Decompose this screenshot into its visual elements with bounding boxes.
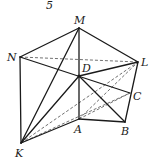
vertex-labels: M N L D C A B K (6, 14, 148, 160)
point-D-dot (77, 74, 80, 77)
edge-NK (20, 57, 21, 143)
label-D: D (81, 62, 91, 75)
label-B: B (120, 125, 129, 138)
label-L: L (140, 56, 148, 69)
label-N: N (6, 51, 17, 64)
edge-ML (79, 28, 138, 62)
edge-MN (20, 28, 79, 57)
edge-AC (79, 93, 130, 119)
label-A: A (73, 123, 82, 136)
label-K: K (14, 147, 24, 160)
label-M: M (73, 14, 86, 27)
edge-NC (20, 57, 130, 93)
label-C: C (133, 90, 142, 103)
figure-number: 5 (46, 0, 53, 12)
edge-AB (79, 119, 125, 122)
geometry-figure: 5 M N L D C A B K (0, 0, 158, 165)
